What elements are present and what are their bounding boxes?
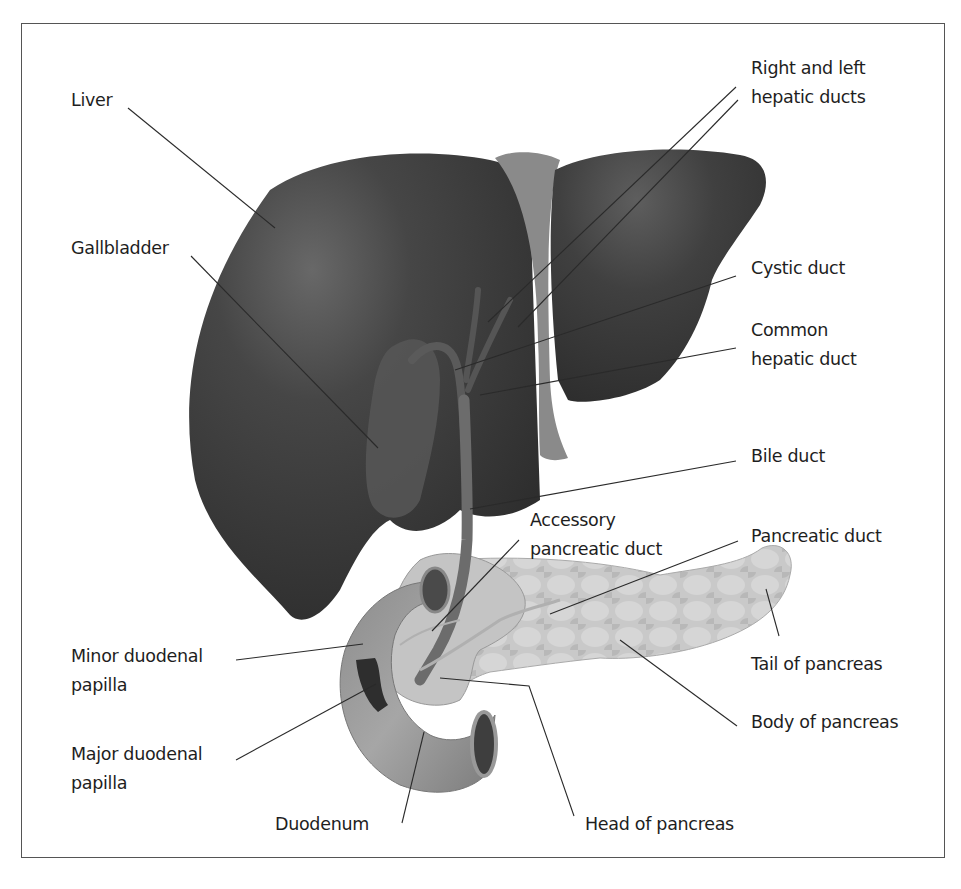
label-duodenum: Duodenum bbox=[275, 810, 369, 839]
pancreas-head bbox=[387, 554, 525, 706]
label-major-duodenal-papilla: Major duodenal papilla bbox=[71, 740, 202, 798]
duodenum-lower-opening bbox=[472, 712, 496, 776]
label-common-hepatic-duct: Common hepatic duct bbox=[751, 316, 857, 374]
liver-right-lobe bbox=[189, 154, 540, 620]
label-pancreatic-duct: Pancreatic duct bbox=[751, 522, 882, 551]
leader-liver bbox=[128, 108, 275, 228]
duodenum-upper-opening bbox=[421, 568, 449, 612]
label-accessory-pancreatic-duct: Accessory pancreatic duct bbox=[530, 506, 662, 564]
label-hepatic-ducts: Right and left hepatic ducts bbox=[751, 54, 866, 112]
label-body-of-pancreas: Body of pancreas bbox=[751, 708, 898, 737]
label-bile-duct: Bile duct bbox=[751, 442, 825, 471]
label-liver: Liver bbox=[71, 86, 112, 115]
label-head-of-pancreas: Head of pancreas bbox=[585, 810, 734, 839]
label-minor-duodenal-papilla: Minor duodenal papilla bbox=[71, 642, 203, 700]
label-gallbladder: Gallbladder bbox=[71, 234, 169, 263]
liver-left-lobe bbox=[551, 150, 766, 402]
leader-body bbox=[620, 640, 737, 726]
label-tail-of-pancreas: Tail of pancreas bbox=[751, 650, 882, 679]
label-cystic-duct: Cystic duct bbox=[751, 254, 845, 283]
